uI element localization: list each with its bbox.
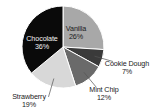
pie-label-cookie-dough: Cookie Dough 7%	[104, 60, 150, 76]
pie-label-vanilla: Vanilla 26%	[59, 25, 93, 41]
pie-chart: Vanilla 26% Chocolate 36% Cookie Dough 7…	[0, 0, 151, 107]
pie-label-strawberry-percent: 19%	[5, 101, 53, 107]
pie-label-strawberry: Strawberry 19%	[5, 93, 53, 107]
pie-label-cookie-dough-percent: 7%	[104, 68, 150, 76]
pie-label-chocolate: Chocolate 36%	[20, 35, 64, 51]
pie-label-mint-chip: Mint Chip 12%	[83, 86, 125, 102]
pie-label-chocolate-percent: 36%	[20, 43, 64, 51]
pie-chart-canvas	[0, 0, 151, 107]
pie-label-mint-chip-percent: 12%	[83, 94, 125, 102]
pie-label-vanilla-percent: 26%	[59, 33, 93, 41]
